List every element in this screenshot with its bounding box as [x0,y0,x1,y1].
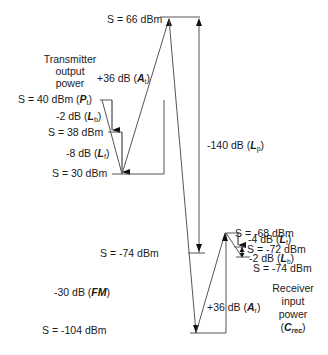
rx-label-line1: Receiver [272,282,314,294]
transmitter-section: Transmitter output power S = 40 dBm (Pt)… [18,18,172,179]
gain-lp: -140 dB (Lp) [207,139,264,153]
gain-at: +36 dB (At) [97,72,150,85]
tx-antenna-gain-line [122,19,169,174]
level-top-66: S = 66 dBm [107,13,162,25]
fade-margin-section: S = -74 dBm -30 dB (FM) S = -104 dBm +36… [42,233,260,336]
arrow-lb-rx-up [240,247,245,252]
peak-section: S = 66 dBm -140 dB (Lp) [107,13,264,333]
path-loss-line [169,19,196,333]
gain-lb-tx: -2 dB (Lb) [56,110,101,123]
tx-label-line3: power [56,77,85,89]
arrow-lp-down [196,244,202,252]
tx-label-line1: Transmitter [44,53,97,65]
rx-label-crec: (Crec) [280,321,305,334]
level-rx-m74: S = -74 dBm [100,247,159,259]
rx-label-line2: input [282,295,305,307]
level-rx-m104: S = -104 dBm [42,324,107,336]
rx-label-line3: power [279,308,308,320]
level-tx-40: S = 40 dBm (Pt) [18,93,92,106]
gain-lf-tx: -8 dB (Lf) [66,147,109,160]
receiver-section: S = -68 dBm -4 dB (Lf) S = -72 dBm -2 dB… [222,227,314,334]
link-budget-diagram: Transmitter output power S = 40 dBm (Pt)… [0,0,328,355]
gain-ar: +36 dB (Ar) [207,301,260,314]
level-tx-38: S = 38 dBm [48,126,103,138]
tx-label-line2: output [55,65,84,77]
gain-fm: -30 dB (FM) [54,286,110,298]
level-rx-m74b: S = -74 dBm [253,262,312,274]
level-tx-30: S = 30 dBm [52,167,107,179]
arrow-lp-up [196,18,202,26]
